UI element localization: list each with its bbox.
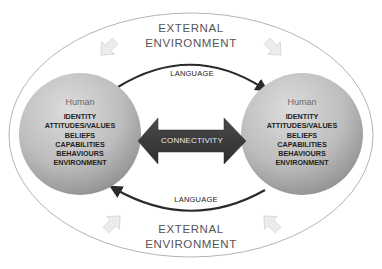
attr-environment: ENVIRONMENT — [30, 158, 130, 167]
attr-beliefs: BELIEFS — [252, 131, 352, 140]
env-arrow-top-left-icon — [95, 35, 122, 62]
attr-capabilities: CAPABILITIES — [30, 140, 130, 149]
attr-behaviours: BEHAVIOURS — [252, 149, 352, 158]
left-human-block: Human IDENTITY ATTITUDES/VALUES BELIEFS … — [30, 97, 130, 168]
ext-bottom-line2: ENVIRONMENT — [141, 237, 241, 252]
attr-capabilities: CAPABILITIES — [252, 140, 352, 149]
attr-identity: IDENTITY — [30, 112, 130, 121]
env-arrow-bottom-left-icon — [100, 210, 127, 237]
language-bottom-label: LANGUAGE — [164, 195, 228, 204]
attr-identity: IDENTITY — [252, 112, 352, 121]
connectivity-label: CONNECTIVITY — [152, 136, 232, 145]
left-human-title: Human — [30, 97, 130, 107]
left-human-attributes: IDENTITY ATTITUDES/VALUES BELIEFS CAPABI… — [30, 112, 130, 168]
env-arrow-bottom-right-icon — [258, 210, 285, 237]
ext-top-line1: EXTERNAL — [141, 21, 241, 36]
attr-attitudes-values: ATTITUDES/VALUES — [252, 121, 352, 130]
attr-behaviours: BEHAVIOURS — [30, 149, 130, 158]
attr-beliefs: BELIEFS — [30, 131, 130, 140]
external-environment-bottom-label: EXTERNAL ENVIRONMENT — [141, 222, 241, 252]
right-human-attributes: IDENTITY ATTITUDES/VALUES BELIEFS CAPABI… — [252, 112, 352, 168]
right-human-block: Human IDENTITY ATTITUDES/VALUES BELIEFS … — [252, 97, 352, 168]
ext-top-line2: ENVIRONMENT — [141, 36, 241, 51]
attr-environment: ENVIRONMENT — [252, 158, 352, 167]
right-human-title: Human — [252, 97, 352, 107]
external-environment-top-label: EXTERNAL ENVIRONMENT — [141, 21, 241, 51]
attr-attitudes-values: ATTITUDES/VALUES — [30, 121, 130, 130]
ext-bottom-line1: EXTERNAL — [141, 222, 241, 237]
language-top-label: LANGUAGE — [160, 69, 224, 78]
env-arrow-top-right-icon — [261, 35, 288, 62]
